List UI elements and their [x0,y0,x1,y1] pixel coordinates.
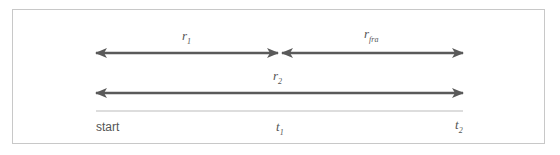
label-t1: t1 [276,119,284,137]
label-t2: t2 [455,117,463,135]
label-rfra: rfra [364,26,378,44]
label-r1: r1 [182,28,191,46]
label-r2: r2 [273,68,282,86]
label-start: start [96,120,119,134]
